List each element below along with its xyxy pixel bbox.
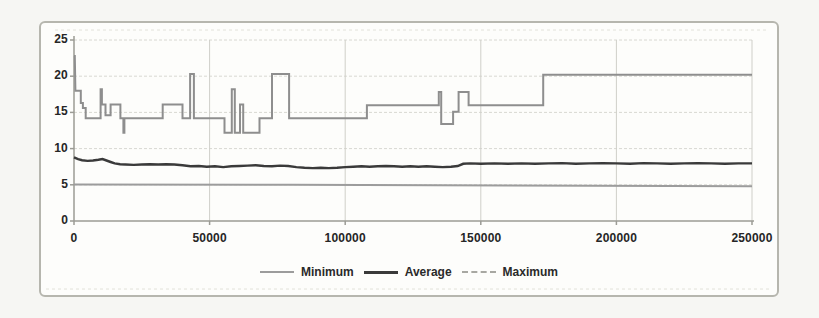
x-axis-tick-label: 200000 — [584, 231, 648, 245]
average-line-swatch-icon — [364, 271, 398, 274]
chart-legend: Minimum Average Maximum — [39, 263, 779, 281]
maximum-series-line — [74, 56, 752, 133]
x-axis-tick-label: 0 — [42, 231, 106, 245]
average-series-line — [74, 157, 752, 168]
minimum-line-swatch-icon — [260, 271, 294, 273]
y-axis-tick-label: 0 — [28, 213, 68, 227]
x-axis-tick-label: 150000 — [449, 231, 513, 245]
x-axis-tick-label: 250000 — [720, 231, 784, 245]
legend-item-maximum: Maximum — [462, 265, 558, 279]
y-axis-tick-label: 20 — [28, 68, 68, 82]
y-axis-tick-label: 10 — [28, 141, 68, 155]
legend-label-maximum: Maximum — [503, 265, 558, 279]
x-axis-tick-label: 100000 — [313, 231, 377, 245]
y-axis-tick-label: 5 — [28, 177, 68, 191]
maximum-line-swatch-icon — [462, 271, 496, 273]
legend-label-minimum: Minimum — [301, 265, 354, 279]
legend-item-minimum: Minimum — [260, 265, 354, 279]
y-axis-tick-label: 15 — [28, 104, 68, 118]
x-axis-tick-label: 50000 — [178, 231, 242, 245]
legend-label-average: Average — [405, 265, 452, 279]
legend-item-average: Average — [364, 265, 452, 279]
y-axis-tick-label: 25 — [28, 32, 68, 46]
scanned-chart-page: 0510152025 05000010000015000020000025000… — [0, 0, 819, 318]
